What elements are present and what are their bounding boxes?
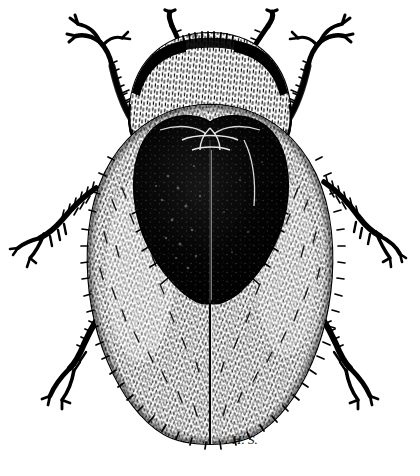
artist-signature: H. S. xyxy=(231,432,258,447)
illustration-plate: H. S. xyxy=(0,0,420,476)
beetle-illustration: H. S. xyxy=(0,0,420,476)
signature-monogram: H. S. xyxy=(231,432,258,447)
